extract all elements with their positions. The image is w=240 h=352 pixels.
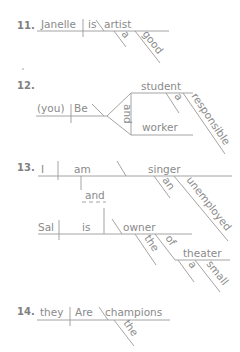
verb-word: is — [88, 18, 96, 30]
modifier-word: responsible — [189, 90, 233, 147]
complement-divider — [112, 219, 122, 234]
modifier-word: small — [204, 258, 231, 287]
modifier-word: a — [172, 90, 186, 102]
subject-word: Sal — [38, 221, 54, 233]
conjunction-word: and — [122, 104, 134, 124]
object-word: theater — [183, 247, 222, 259]
verb-word: am — [74, 163, 91, 175]
verb-word: Be — [74, 102, 88, 114]
complement-word: champions — [105, 306, 162, 318]
complement-divider — [92, 104, 104, 116]
modifier-word: the — [142, 232, 162, 253]
conjunction-word: and — [85, 189, 105, 201]
diagram-number: 13. — [17, 162, 35, 173]
diagram-13: 13. and I am singer an unemployed Sal is… — [17, 161, 234, 292]
complement-divider — [96, 20, 104, 31]
subject-word: (you) — [37, 102, 65, 114]
modifier-word: unemployed — [184, 174, 234, 233]
subject-word: I — [41, 163, 44, 175]
diagram-number: 14. — [17, 306, 35, 317]
diagram-number: 11. — [17, 20, 35, 31]
subject-word: they — [40, 306, 63, 318]
complement-word: singer — [148, 163, 181, 175]
verb-word: Are — [75, 306, 93, 318]
subject-word: Janelle — [40, 18, 76, 30]
complement-word: student — [141, 80, 181, 92]
modifier-word: good — [140, 28, 166, 56]
verb-word: is — [82, 221, 90, 233]
diagram-number: 12. — [17, 80, 35, 91]
complement-word: owner — [123, 221, 156, 233]
diagram-11: 11. Janelle is artist a good — [17, 18, 169, 70]
diagram-12: 12. (you) Be student worker and a respon… — [17, 80, 233, 154]
diagram-14: 14. they Are champions the — [17, 306, 170, 346]
sentence-diagrams: 11. Janelle is artist a good 12. (you) B… — [0, 0, 240, 352]
complement-divider — [117, 161, 126, 176]
complement-word: worker — [142, 121, 178, 133]
preposition-word: of — [163, 232, 179, 247]
